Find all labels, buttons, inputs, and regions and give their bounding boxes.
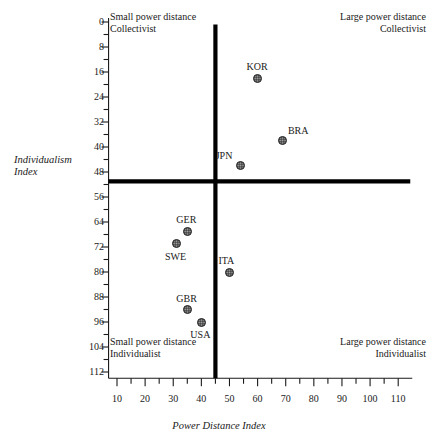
y-axis-tick-label: 0 xyxy=(78,17,104,27)
x-axis-tick-label: 100 xyxy=(355,394,385,404)
data-point-label: KOR xyxy=(247,62,268,72)
y-axis-tick-label: 24 xyxy=(78,92,104,102)
x-axis-tick-labels: 102030405060708090100110 xyxy=(0,394,438,410)
y-axis-tick-label: 40 xyxy=(78,142,104,152)
x-axis-tick-label: 10 xyxy=(102,394,132,404)
y-axis-tick-label: 64 xyxy=(78,217,104,227)
x-axis-tick-label: 110 xyxy=(383,394,413,404)
y-axis-tick-label: 8 xyxy=(78,42,104,52)
data-point-label: BRA xyxy=(288,126,309,136)
x-axis-tick-label: 70 xyxy=(271,394,301,404)
y-axis-tick-label: 32 xyxy=(78,117,104,127)
x-axis-tick-label: 90 xyxy=(327,394,357,404)
x-axis-tick-label: 50 xyxy=(214,394,244,404)
data-point-marker xyxy=(172,239,181,248)
y-axis-tick-label: 112 xyxy=(78,367,104,377)
data-point-marker xyxy=(197,318,206,327)
y-axis-title: Individualism Index xyxy=(14,154,94,178)
y-axis-tick-label: 16 xyxy=(78,67,104,77)
x-axis-tick-label: 40 xyxy=(186,394,216,404)
data-point-marker xyxy=(225,268,234,277)
quadrant-label-bottom-right: Large power distance Individualist xyxy=(286,336,426,359)
y-axis-tick-label: 88 xyxy=(78,292,104,302)
data-point-label: JPN xyxy=(216,151,233,161)
data-point-marker xyxy=(253,74,262,83)
x-axis-tick-label: 80 xyxy=(299,394,329,404)
quadrant-label-top-left: Small power distance Collectivist xyxy=(110,11,196,34)
y-axis-tick-label: 56 xyxy=(78,192,104,202)
y-axis-tick-label: 96 xyxy=(78,317,104,327)
y-axis-tick-label: 104 xyxy=(78,342,104,352)
quadrant-label-bottom-left: Small power distance Individualist xyxy=(110,336,196,359)
data-point-label: GER xyxy=(176,215,196,225)
x-axis-tick-label: 20 xyxy=(130,394,160,404)
data-point-label: ITA xyxy=(218,256,234,266)
data-point-marker xyxy=(183,305,192,314)
y-axis-tick-label: 80 xyxy=(78,267,104,277)
data-point-label: SWE xyxy=(165,252,186,262)
y-axis-tick-labels: 081624324048566472808896104112 xyxy=(60,0,104,400)
x-axis-tick-label: 30 xyxy=(158,394,188,404)
x-axis-tick-label: 60 xyxy=(243,394,273,404)
quadrant-label-top-right: Large power distance Collectivist xyxy=(286,11,426,34)
y-axis-tick-label: 72 xyxy=(78,242,104,252)
scatter-chart: 081624324048566472808896104112 102030405… xyxy=(0,0,438,443)
data-point-marker xyxy=(183,227,192,236)
data-point-label: GBR xyxy=(176,294,197,304)
x-axis-title: Power Distance Index xyxy=(0,420,438,432)
